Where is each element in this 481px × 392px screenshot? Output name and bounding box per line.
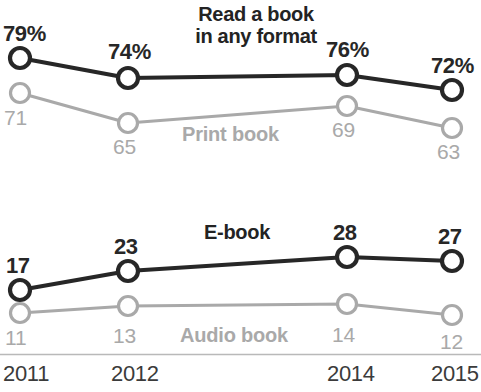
value-label-ebook-2012: 23 <box>114 236 138 258</box>
marker-ebook <box>337 247 357 267</box>
x-tick-label-2015: 2015 <box>431 363 479 385</box>
value-label-print-book-2011: 71 <box>4 107 27 128</box>
value-label-read-a-book-2014: 76% <box>326 39 369 61</box>
marker-ebook <box>10 280 30 300</box>
series-line-read-a-book <box>20 58 452 90</box>
marker-read-a-book <box>10 48 30 68</box>
series-line-audio-book <box>20 304 452 315</box>
value-label-print-book-2015: 63 <box>437 141 460 162</box>
value-label-print-book-2014: 69 <box>332 119 355 140</box>
value-label-audio-book-2014: 14 <box>332 324 355 345</box>
value-label-audio-book-2012: 13 <box>113 325 136 346</box>
marker-audio-book <box>443 306 462 325</box>
series-line-ebook <box>20 257 452 290</box>
marker-print-book <box>443 119 462 138</box>
marker-ebook <box>442 251 462 271</box>
value-label-audio-book-2011: 11 <box>5 327 26 348</box>
x-tick-label-2014: 2014 <box>327 363 375 385</box>
value-label-audio-book-2015: 12 <box>440 331 463 352</box>
panel-title-ebook: E-book <box>204 221 270 243</box>
series-label-print-book: Print book <box>182 124 279 144</box>
marker-read-a-book <box>118 68 138 88</box>
series-label-audio-book: Audio book <box>180 325 288 345</box>
marker-print-book <box>119 114 138 133</box>
value-label-read-a-book-2015: 72% <box>431 55 474 77</box>
panel-title-read-a-book: Read a book in any format <box>166 3 346 48</box>
marker-audio-book <box>119 297 138 316</box>
value-label-ebook-2014: 28 <box>333 222 357 244</box>
x-tick-label-2012: 2012 <box>111 363 159 385</box>
marker-read-a-book <box>442 80 462 100</box>
panel-title-line-1: Read a book <box>166 3 346 25</box>
marker-audio-book <box>338 295 357 314</box>
chart-container: Read a book in any format 79% 74% 76% 72… <box>0 0 481 392</box>
value-label-print-book-2012: 65 <box>113 136 136 157</box>
marker-audio-book <box>11 304 30 323</box>
panel-title-line-2: in any format <box>166 25 346 47</box>
value-label-ebook-2011: 17 <box>6 255 30 277</box>
value-label-read-a-book-2011: 79% <box>3 23 46 45</box>
value-label-ebook-2015: 27 <box>438 226 462 248</box>
x-tick-label-2011: 2011 <box>3 363 49 385</box>
value-label-read-a-book-2012: 74% <box>108 41 151 63</box>
marker-read-a-book <box>337 65 357 85</box>
marker-ebook <box>118 261 138 281</box>
marker-print-book <box>338 97 357 116</box>
marker-print-book <box>11 84 30 103</box>
